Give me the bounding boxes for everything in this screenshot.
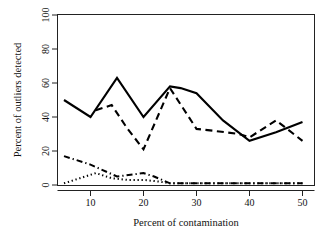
x-tick-label-40: 40 (245, 197, 255, 208)
y-tick-label-80: 80 (40, 44, 51, 54)
y-axis-title: Percent of outliers detected (12, 42, 23, 157)
x-tick-label-30: 30 (192, 197, 202, 208)
y-tick-label-100: 100 (40, 8, 51, 23)
chart-figure: 100 80 60 40 20 0 Percent of outliers de… (0, 0, 329, 235)
x-tick-label-20: 20 (139, 197, 149, 208)
x-tick-label-10: 10 (86, 197, 96, 208)
y-tick-label-0: 0 (40, 183, 51, 188)
x-axis-title: Percent of contamination (133, 217, 239, 228)
y-tick-label-40: 40 (40, 112, 51, 122)
x-tick-label-50: 50 (298, 197, 308, 208)
y-tick-label-60: 60 (40, 78, 51, 88)
y-tick-label-20: 20 (40, 146, 51, 156)
chart-plot-area: 100 80 60 40 20 0 Percent of outliers de… (0, 0, 329, 235)
